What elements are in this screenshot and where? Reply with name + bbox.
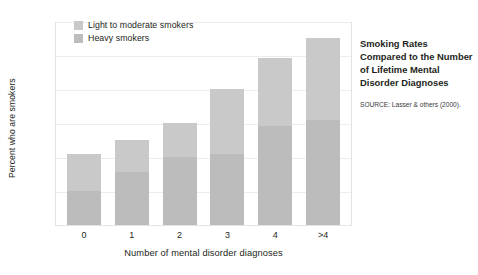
bar-column xyxy=(258,23,292,225)
x-tick-label: 1 xyxy=(112,230,152,240)
x-axis-title: Number of mental disorder diagnoses xyxy=(55,248,352,258)
bar-column xyxy=(163,23,197,225)
chart-legend: Light to moderate smokersHeavy smokers xyxy=(74,20,193,43)
bar-segment-light-to-moderate xyxy=(115,140,149,172)
bar-segment-heavy xyxy=(258,126,292,225)
y-axis-title: Percent who are smokers xyxy=(7,62,21,194)
bar-column xyxy=(67,23,101,225)
caption-source: SOURCE: Lasser & others (2000). xyxy=(360,101,474,110)
legend-item: Light to moderate smokers xyxy=(74,20,193,30)
x-tick-label: >4 xyxy=(303,230,343,240)
legend-item: Heavy smokers xyxy=(74,33,193,43)
bar-column xyxy=(210,23,244,225)
caption-title: Smoking Rates Compared to the Number of … xyxy=(360,38,474,90)
bar-column xyxy=(115,23,149,225)
legend-label: Light to moderate smokers xyxy=(88,20,193,30)
legend-swatch-icon xyxy=(74,34,83,43)
chart-block: Percent who are smokers 0102030405060 01… xyxy=(0,0,352,275)
x-tick-label: 2 xyxy=(160,230,200,240)
caption-block: Smoking Rates Compared to the Number of … xyxy=(360,38,474,110)
bar-segment-light-to-moderate xyxy=(210,89,244,154)
bar-segment-heavy xyxy=(306,120,340,225)
bar-segment-light-to-moderate xyxy=(163,123,197,157)
legend-label: Heavy smokers xyxy=(88,33,149,43)
x-tick-label: 4 xyxy=(255,230,295,240)
x-tick-label: 0 xyxy=(64,230,104,240)
x-tick-label: 3 xyxy=(207,230,247,240)
legend-swatch-icon xyxy=(74,21,83,30)
bar-segment-light-to-moderate xyxy=(258,58,292,126)
figure-container: Percent who are smokers 0102030405060 01… xyxy=(0,0,478,275)
plot-area xyxy=(55,22,352,226)
bar-series-group xyxy=(56,23,351,225)
bar-segment-heavy xyxy=(67,191,101,225)
bar-segment-light-to-moderate xyxy=(306,38,340,120)
bar-segment-heavy xyxy=(163,157,197,225)
bar-segment-light-to-moderate xyxy=(67,154,101,191)
bar-segment-heavy xyxy=(115,172,149,225)
bar-column xyxy=(306,23,340,225)
bar-segment-heavy xyxy=(210,154,244,225)
